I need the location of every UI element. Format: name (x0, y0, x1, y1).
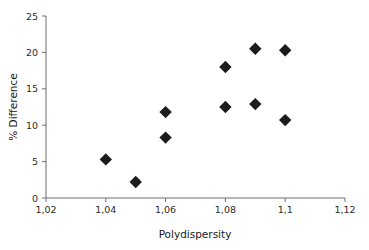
x-tick-label-112: 1,12 (334, 204, 355, 215)
plot-area: 0 5 10 15 20 25 1,02 1,04 1,06 1,08 1,1 … (0, 0, 369, 250)
y-tick-label-20: 20 (26, 47, 38, 58)
x-tick-label-108: 1,08 (215, 204, 236, 215)
x-axis-title: Polydispersity (159, 228, 232, 240)
x-tick-label-106: 1,06 (155, 204, 176, 215)
y-axis-title: % Difference (7, 73, 19, 140)
x-tick-label-104: 1,04 (95, 204, 116, 215)
scatter-chart-figure: 0 5 10 15 20 25 1,02 1,04 1,06 1,08 1,1 … (0, 0, 369, 250)
y-tick-label-0: 0 (32, 193, 38, 204)
y-tick-label-10: 10 (26, 120, 38, 131)
y-tick-label-15: 15 (26, 83, 38, 94)
x-tick-label-11: 1,1 (278, 204, 293, 215)
x-tick-label-102: 1,02 (35, 204, 56, 215)
y-tick-label-25: 25 (26, 11, 38, 22)
y-tick-label-5: 5 (32, 156, 38, 167)
